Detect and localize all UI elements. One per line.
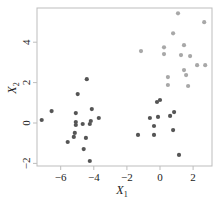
plot-frame xyxy=(37,8,212,166)
data-point-cluster-dark xyxy=(177,153,181,157)
data-point-cluster-dark xyxy=(74,123,78,127)
data-point-cluster-dark xyxy=(90,107,94,111)
data-point-cluster-dark xyxy=(50,109,54,113)
x-tick-label: −6 xyxy=(55,171,67,183)
data-point-cluster-dark xyxy=(158,98,162,102)
data-point-cluster-gray xyxy=(176,11,180,15)
data-point-cluster-dark xyxy=(88,122,92,126)
x-tick-label: −4 xyxy=(88,171,100,183)
data-point-cluster-gray xyxy=(202,20,206,24)
data-point-cluster-dark xyxy=(82,147,86,151)
data-point-cluster-dark xyxy=(156,115,160,119)
data-point-cluster-dark xyxy=(72,135,76,139)
y-tick-label: 2 xyxy=(20,80,32,86)
data-point-cluster-gray xyxy=(182,68,186,72)
data-point-cluster-gray xyxy=(203,63,207,67)
data-point-cluster-dark xyxy=(40,118,44,122)
data-point-cluster-gray xyxy=(184,73,188,77)
data-point-cluster-dark xyxy=(168,114,172,118)
data-point-cluster-gray xyxy=(139,49,143,53)
data-point-cluster-dark xyxy=(148,116,152,120)
data-point-cluster-gray xyxy=(188,54,192,58)
data-points xyxy=(40,11,208,163)
x-axis-title: X1 xyxy=(115,183,127,199)
x-tick-label: 2 xyxy=(190,171,196,183)
x-axis: −6−4−202 xyxy=(55,166,196,183)
data-point-cluster-gray xyxy=(166,83,170,87)
x-tick-label: −2 xyxy=(121,171,133,183)
data-point-cluster-gray xyxy=(162,45,166,49)
data-point-cluster-dark xyxy=(76,92,80,96)
data-point-cluster-dark xyxy=(171,128,175,132)
data-point-cluster-dark xyxy=(152,124,156,128)
data-point-cluster-dark xyxy=(152,133,156,137)
data-point-cluster-gray xyxy=(179,53,183,57)
data-point-cluster-gray xyxy=(182,43,186,47)
data-point-cluster-dark xyxy=(74,111,78,115)
data-point-cluster-dark xyxy=(97,116,101,120)
data-point-cluster-dark xyxy=(73,131,77,135)
y-tick-label: −2 xyxy=(20,158,32,170)
data-point-cluster-dark xyxy=(84,136,88,140)
data-point-cluster-gray xyxy=(166,75,170,79)
scatter-plot: −6−4−202 −2024 X1 X2 xyxy=(0,0,220,201)
data-point-cluster-dark xyxy=(85,77,89,81)
data-point-cluster-gray xyxy=(186,84,190,88)
data-point-cluster-dark xyxy=(136,133,140,137)
y-tick-label: 0 xyxy=(20,120,32,126)
data-point-cluster-dark xyxy=(88,159,92,163)
y-tick-label: 4 xyxy=(20,39,32,45)
data-point-cluster-dark xyxy=(172,110,176,114)
data-point-cluster-dark xyxy=(81,122,85,126)
x-tick-label: 0 xyxy=(157,171,163,183)
y-axis: −2024 xyxy=(20,39,37,169)
data-point-cluster-gray xyxy=(162,52,166,56)
data-point-cluster-dark xyxy=(66,140,70,144)
y-axis-title: X2 xyxy=(5,82,21,94)
data-point-cluster-gray xyxy=(171,31,175,35)
data-point-cluster-gray xyxy=(195,63,199,67)
